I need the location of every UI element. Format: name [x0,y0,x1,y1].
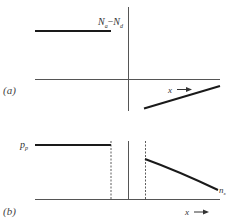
panel-b-left-label: pp [19,139,28,151]
panel-a-y-label: Na−Nd [97,16,124,29]
panel-b-x-label: x [184,207,189,217]
panel-b-right-label: nx [219,185,227,196]
diagram-canvas: Na−Nd x (a) pp nx x [0,0,229,222]
panel-b: pp nx x (b) [3,139,227,218]
arrow-right-icon [177,87,192,92]
arrow-right-icon [194,210,209,215]
panel-a-label: (a) [3,84,16,97]
panel-a: Na−Nd x (a) [3,7,220,111]
panel-b-label: (b) [3,205,16,218]
panel-a-x-label: x [167,85,172,95]
panel-b-n-side-curve [145,159,218,190]
